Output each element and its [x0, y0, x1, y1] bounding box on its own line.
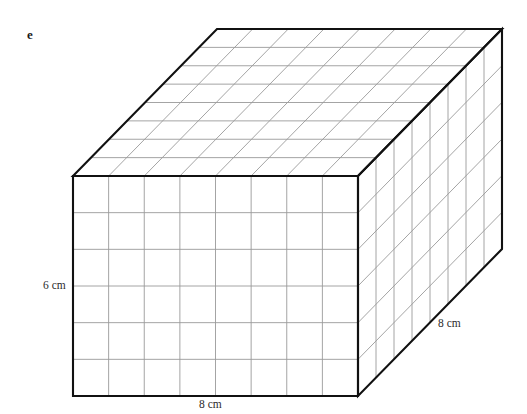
- part-label-e: e: [27, 28, 33, 41]
- grid-lines-group: [73, 29, 502, 396]
- figure-container: e 6 cm 8 cm 8 cm: [0, 0, 527, 414]
- dimension-label-depth: 8 cm: [438, 318, 461, 330]
- dimension-label-height: 6 cm: [43, 280, 66, 292]
- rectangular-prism-drawing: [0, 0, 527, 414]
- dimension-label-width: 8 cm: [199, 399, 222, 411]
